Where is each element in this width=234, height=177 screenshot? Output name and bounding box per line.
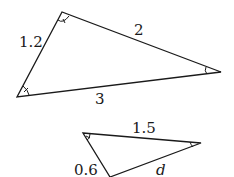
large-right-angle-arc	[205, 67, 207, 74]
large-triangle	[17, 12, 221, 97]
side-label-1-5: 1.5	[132, 119, 156, 137]
side-label-3: 3	[95, 90, 105, 108]
side-label-d: d	[156, 161, 166, 177]
small-triangle	[83, 133, 201, 177]
side-label-0-6: 0.6	[74, 161, 98, 177]
similar-triangles-diagram: 1.2 2 3 1.5 0.6 d	[0, 0, 234, 177]
side-label-2: 2	[134, 21, 144, 39]
side-label-1-2: 1.2	[19, 33, 43, 51]
